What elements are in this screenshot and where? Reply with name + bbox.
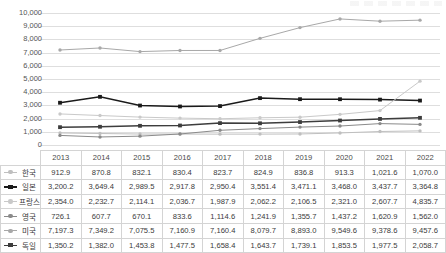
- data-point: [58, 134, 61, 137]
- table-row-header-독일: 독일: [1, 238, 41, 253]
- table-cell: 3,468.0: [324, 180, 365, 195]
- data-point: [258, 116, 261, 119]
- data-point: [378, 130, 381, 133]
- table-row-header-프랑스: 프랑스: [1, 194, 41, 209]
- data-point: [98, 46, 101, 49]
- data-point: [218, 49, 221, 52]
- table-header-row: 2013201420152016201720182019202020212022: [1, 151, 446, 166]
- table-col-header-2020: 2020: [324, 151, 365, 166]
- data-point: [298, 115, 301, 118]
- table-cell: 3,551.4: [243, 180, 284, 195]
- y-axis-tick-label: 7,000: [23, 49, 42, 57]
- legend-marker-icon: [4, 213, 17, 220]
- data-point: [298, 26, 301, 29]
- table-row-header-한국: 한국: [1, 165, 41, 180]
- data-point: [218, 121, 222, 125]
- data-point: [298, 132, 301, 135]
- legend-label: 한국: [19, 167, 39, 178]
- y-axis-tick-label: 3,000: [23, 102, 42, 110]
- table-cell: 7,349.2: [81, 223, 122, 238]
- y-axis-tick-label: 2,000: [23, 115, 42, 123]
- table-cell: 1,437.2: [324, 209, 365, 224]
- table-cell: 830.4: [162, 165, 203, 180]
- table-row-header-미국: 미국: [1, 223, 41, 238]
- series-line-영국: [60, 124, 420, 137]
- table-cell: 4,835.7: [405, 194, 446, 209]
- table-cell: 2,036.7: [162, 194, 203, 209]
- data-point: [58, 112, 61, 115]
- table-cell: 2,321.0: [324, 194, 365, 209]
- data-point: [138, 124, 142, 128]
- data-point: [218, 132, 221, 135]
- legend-label: 미국: [19, 225, 39, 236]
- data-point: [418, 18, 421, 21]
- table-cell: 2,917.8: [162, 180, 203, 195]
- data-point: [418, 79, 421, 82]
- table-cell: 2,106.5: [284, 194, 325, 209]
- legend-label: 독일: [19, 240, 39, 251]
- table-cell: 8,893.0: [284, 223, 325, 238]
- series-line-한국: [60, 131, 420, 134]
- legend-marker-icon: [4, 227, 17, 234]
- table-cell: 1,114.6: [203, 209, 244, 224]
- y-axis-tick-label: 0: [38, 141, 42, 149]
- table-cell: 1,477.5: [162, 238, 203, 253]
- table-cell: 1,658.4: [203, 238, 244, 253]
- y-axis-tick-label: 4,000: [23, 88, 42, 96]
- data-point: [378, 20, 381, 23]
- table-col-header-2022: 2022: [405, 151, 446, 166]
- table-cell: 3,200.2: [41, 180, 82, 195]
- data-point: [178, 116, 181, 119]
- data-point: [418, 99, 422, 103]
- data-point: [58, 48, 61, 51]
- y-axis-tick-label: 6,000: [23, 62, 42, 70]
- table-cell: 832.1: [122, 165, 163, 180]
- data-point: [298, 125, 301, 128]
- y-axis-tick-label: 5,000: [23, 75, 42, 83]
- data-point: [258, 132, 261, 135]
- y-axis-tick-label: 8,000: [23, 36, 42, 44]
- data-point: [338, 131, 341, 134]
- data-point: [258, 121, 262, 125]
- table-cell: 1,977.5: [365, 238, 406, 253]
- data-point: [218, 104, 222, 108]
- line-chart: 10,0009,0008,0007,0006,0005,0004,0003,00…: [0, 0, 446, 155]
- table-col-header-2019: 2019: [284, 151, 325, 166]
- table-cell: 1,355.7: [284, 209, 325, 224]
- table-row: 한국912.9870.8832.1830.4823.7824.9836.8913…: [1, 165, 446, 180]
- table-cell: 2,062.2: [243, 194, 284, 209]
- data-table: 2013201420152016201720182019202020212022…: [0, 150, 446, 253]
- data-point: [58, 125, 62, 129]
- table-cell: 2,354.0: [41, 194, 82, 209]
- legend-label: 프랑스: [19, 196, 40, 207]
- table-cell: 2,232.7: [81, 194, 122, 209]
- data-point: [98, 114, 101, 117]
- data-point: [258, 37, 261, 40]
- data-point: [378, 117, 382, 121]
- table-cell: 8,079.7: [243, 223, 284, 238]
- legend-marker-icon: [4, 169, 17, 176]
- series-line-미국: [60, 19, 420, 52]
- table-cell: 2,989.5: [122, 180, 163, 195]
- table-row: 프랑스2,354.02,232.72,114.12,036.71,987.92,…: [1, 194, 446, 209]
- table-cell: 7,160.4: [203, 223, 244, 238]
- table-col-header-2014: 2014: [81, 151, 122, 166]
- table-body: 한국912.9870.8832.1830.4823.7824.9836.8913…: [1, 165, 446, 253]
- table-cell: 1,070.0: [405, 165, 446, 180]
- table-cell: 1,350.2: [41, 238, 82, 253]
- table-cell: 1,562.0: [405, 209, 446, 224]
- data-point: [98, 95, 102, 99]
- series-line-독일: [60, 118, 420, 127]
- table-cell: 9,457.6: [405, 223, 446, 238]
- table-corner-cell: [1, 151, 41, 166]
- legend-label: 일본: [19, 181, 39, 192]
- plot-area: [40, 13, 440, 145]
- table-row: 독일1,350.21,382.01,453.81,477.51,658.41,6…: [1, 238, 446, 253]
- data-point: [178, 105, 182, 109]
- table-cell: 836.8: [284, 165, 325, 180]
- table-cell: 2,114.1: [122, 194, 163, 209]
- data-point: [218, 129, 221, 132]
- data-point: [298, 97, 302, 101]
- data-point: [418, 129, 421, 132]
